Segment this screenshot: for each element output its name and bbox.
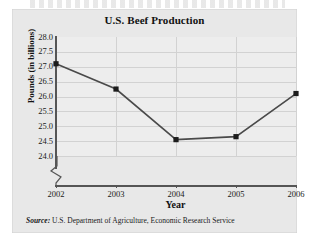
source-text: U.S. Department of Agriculture, Economic… bbox=[52, 216, 235, 225]
series-line bbox=[56, 64, 296, 140]
data-point-marker bbox=[53, 61, 58, 66]
source-note: Source: U.S. Department of Agriculture, … bbox=[26, 216, 294, 225]
x-tick-label: 2004 bbox=[156, 189, 196, 199]
x-tick-label: 2003 bbox=[96, 189, 136, 199]
data-point-marker bbox=[173, 137, 178, 142]
data-point-marker bbox=[293, 91, 298, 96]
x-tick-mark bbox=[116, 185, 117, 188]
x-tick-mark bbox=[56, 185, 57, 188]
scan-artifact-top-text bbox=[30, 0, 285, 8]
x-tick-mark bbox=[296, 185, 297, 188]
data-series-line bbox=[12, 9, 297, 233]
x-tick-label: 2005 bbox=[216, 189, 256, 199]
x-tick-label: 2006 bbox=[276, 189, 309, 199]
x-tick-label: 2002 bbox=[36, 189, 76, 199]
source-label: Source: bbox=[26, 216, 50, 225]
data-point-marker bbox=[113, 86, 118, 91]
data-point-marker bbox=[233, 134, 238, 139]
figure-panel: U.S. Beef Production 28.027.527.026.526.… bbox=[12, 9, 297, 233]
x-tick-mark bbox=[176, 185, 177, 188]
x-tick-mark bbox=[236, 185, 237, 188]
